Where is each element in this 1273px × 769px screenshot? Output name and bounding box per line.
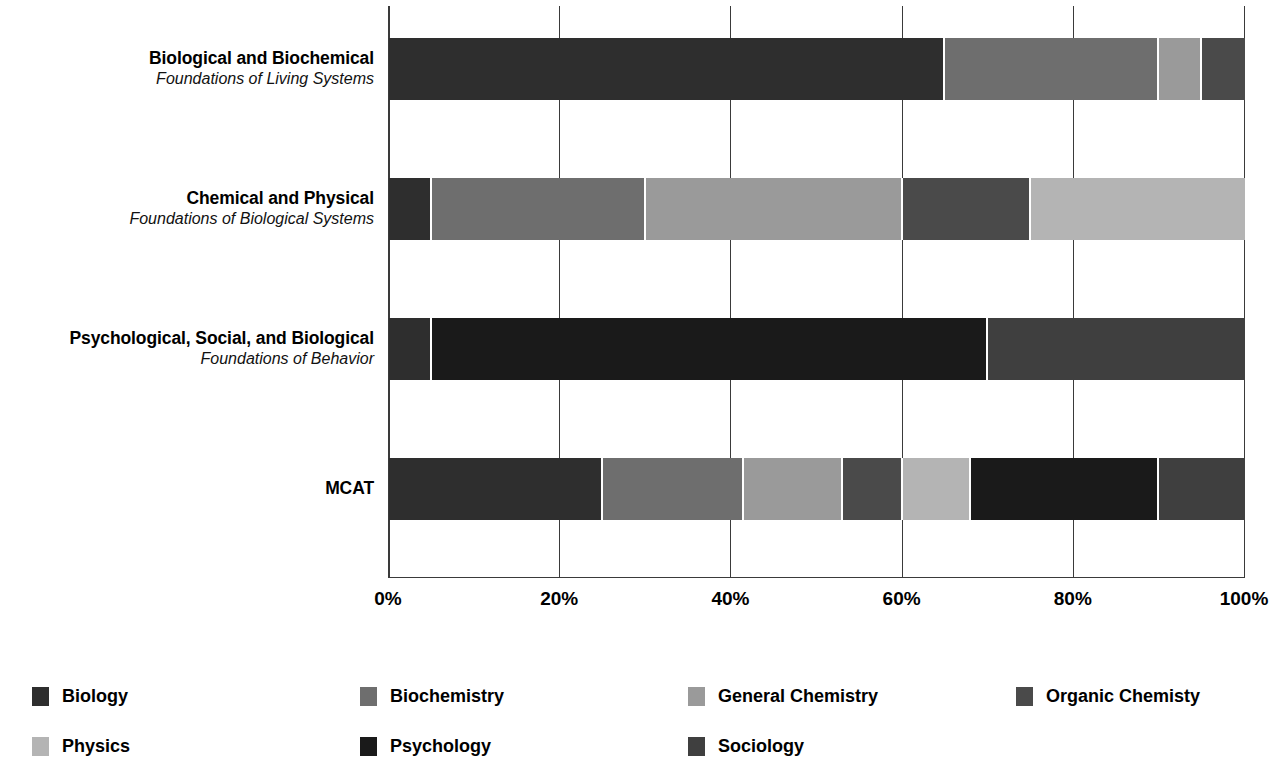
legend-label: Organic Chemisty	[1046, 686, 1200, 707]
legend-item[interactable]: General Chemistry	[688, 686, 878, 707]
legend-swatch-icon	[688, 737, 705, 756]
bar-segment	[1031, 178, 1245, 240]
bar-segment	[903, 178, 1031, 240]
bar-segment	[603, 458, 744, 520]
bar-row: Biological and BiochemicalFoundations of…	[0, 34, 1268, 104]
legend-swatch-icon	[360, 687, 377, 706]
category-label-title: Biological and Biochemical	[0, 48, 374, 69]
stacked-bar	[389, 178, 1245, 240]
legend-item[interactable]: Biology	[32, 686, 128, 707]
legend-item[interactable]: Organic Chemisty	[1016, 686, 1200, 707]
bar-segment	[971, 458, 1159, 520]
category-label-subtitle: Foundations of Biological Systems	[0, 210, 374, 230]
legend-label: Biology	[62, 686, 128, 707]
category-label: Chemical and PhysicalFoundations of Biol…	[0, 188, 374, 229]
legend-label: Psychology	[390, 736, 491, 757]
bar-segment	[432, 318, 988, 380]
category-label-title: Chemical and Physical	[0, 188, 374, 209]
bar-row: Chemical and PhysicalFoundations of Biol…	[0, 174, 1268, 244]
category-label: Biological and BiochemicalFoundations of…	[0, 48, 374, 89]
bar-segment	[646, 178, 903, 240]
stacked-bar	[389, 38, 1245, 100]
x-tick-label: 100%	[1199, 588, 1273, 610]
legend-item[interactable]: Biochemistry	[360, 686, 504, 707]
bar-segment	[988, 318, 1245, 380]
legend-label: General Chemistry	[718, 686, 878, 707]
bar-segment	[432, 178, 646, 240]
legend-swatch-icon	[32, 737, 49, 756]
x-tick-label: 60%	[857, 588, 947, 610]
bar-segment	[903, 458, 971, 520]
category-label-title: Psychological, Social, and Biological	[0, 328, 374, 349]
x-tick-label: 80%	[1028, 588, 1118, 610]
bar-segment	[389, 318, 432, 380]
bar-segment	[389, 458, 603, 520]
bar-segment	[945, 38, 1159, 100]
bar-segment	[1202, 38, 1245, 100]
x-axis-line	[388, 577, 1245, 578]
bar-segment	[389, 38, 945, 100]
legend-item[interactable]: Psychology	[360, 736, 491, 757]
legend-label: Sociology	[718, 736, 804, 757]
x-tick-label: 20%	[514, 588, 604, 610]
bar-segment	[744, 458, 842, 520]
legend-swatch-icon	[32, 687, 49, 706]
bar-row: Psychological, Social, and BiologicalFou…	[0, 314, 1268, 384]
category-label: MCAT	[0, 478, 374, 499]
chart-legend: BiologyBiochemistryGeneral ChemistryOrga…	[0, 686, 1268, 769]
bar-segment	[1159, 38, 1202, 100]
bar-segment	[389, 178, 432, 240]
category-label-subtitle: Foundations of Living Systems	[0, 70, 374, 90]
legend-label: Physics	[62, 736, 130, 757]
category-label-title: MCAT	[0, 478, 374, 499]
bar-row: MCAT	[0, 454, 1268, 524]
legend-swatch-icon	[688, 687, 705, 706]
bar-segment	[1159, 458, 1245, 520]
legend-item[interactable]: Physics	[32, 736, 130, 757]
legend-label: Biochemistry	[390, 686, 504, 707]
bar-segment	[843, 458, 903, 520]
legend-swatch-icon	[1016, 687, 1033, 706]
legend-item[interactable]: Sociology	[688, 736, 804, 757]
stacked-bar	[389, 318, 1245, 380]
stacked-bar	[389, 458, 1245, 520]
x-tick-label: 0%	[343, 588, 433, 610]
category-label: Psychological, Social, and BiologicalFou…	[0, 328, 374, 369]
legend-swatch-icon	[360, 737, 377, 756]
x-tick-label: 40%	[685, 588, 775, 610]
category-label-subtitle: Foundations of Behavior	[0, 350, 374, 370]
